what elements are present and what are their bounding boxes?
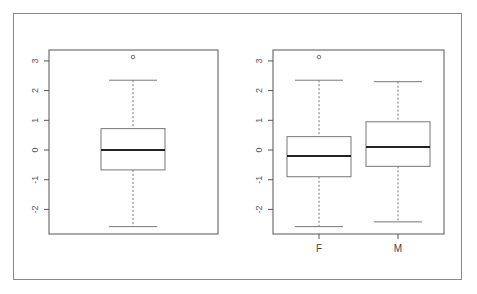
y-tick-label: 1 [254, 118, 264, 123]
y-tick-label: -1 [254, 176, 264, 184]
y-tick-label: -2 [254, 205, 264, 213]
x-tick-label: F [316, 243, 322, 254]
y-tick-label: 3 [254, 58, 264, 63]
y-tick-label: 0 [254, 147, 264, 152]
boxplot-panel-by-sex: -2-10123FM [254, 50, 444, 254]
y-tick-label: 3 [30, 58, 40, 63]
y-tick-label: 2 [30, 88, 40, 93]
box-F [287, 55, 351, 226]
y-tick-label: -1 [30, 176, 40, 184]
y-tick-label: 2 [254, 88, 264, 93]
outlier-point [317, 55, 321, 59]
y-tick-label: 1 [30, 118, 40, 123]
box-M [366, 82, 430, 222]
x-tick-label: M [394, 243, 402, 254]
y-tick-label: 0 [30, 147, 40, 152]
boxplot-figure: -2-10123 -2-10123FM [0, 0, 477, 294]
y-tick-label: -2 [30, 205, 40, 213]
box-all [101, 55, 165, 226]
outlier-point [131, 55, 135, 59]
boxplot-panel-overall: -2-10123 [30, 50, 218, 234]
iqr-box [366, 122, 430, 167]
